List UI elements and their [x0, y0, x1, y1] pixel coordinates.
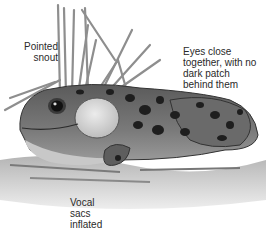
label-eyes-close-together: Eyes close together, with no dark patch … — [183, 46, 265, 90]
label-line: snout — [12, 52, 58, 63]
label-line: inflated — [70, 219, 120, 229]
frog-illustration — [0, 0, 266, 229]
vocal-sac — [75, 98, 119, 138]
label-line: dark patch — [183, 68, 265, 79]
frog-diagram: Pointed snout Eyes close together, with … — [0, 0, 266, 229]
label-line: together, with no — [183, 57, 265, 68]
frog-eye — [48, 98, 66, 114]
label-line: Eyes close — [183, 46, 265, 57]
label-line: Vocal — [70, 197, 120, 208]
water — [0, 156, 266, 209]
label-pointed-snout: Pointed snout — [12, 41, 58, 63]
label-vocal-sacs-inflated: Vocal sacs inflated — [70, 197, 120, 229]
label-line: behind them — [183, 79, 265, 90]
label-line: sacs — [70, 208, 120, 219]
label-line: Pointed — [12, 41, 58, 52]
